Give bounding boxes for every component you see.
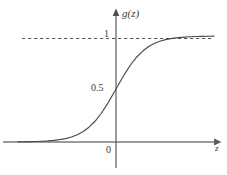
x-axis-label: z — [215, 144, 219, 153]
y-tick-label-half: 0.5 — [91, 83, 104, 93]
y-tick-label-one: 1 — [104, 29, 109, 39]
origin-label: 0 — [106, 145, 111, 155]
y-axis-arrow-icon — [113, 9, 120, 17]
sigmoid-function-figure: g(z) 1 0.5 0 z — [0, 0, 227, 175]
plot-canvas — [0, 0, 227, 175]
y-axis-label: g(z) — [122, 8, 139, 19]
